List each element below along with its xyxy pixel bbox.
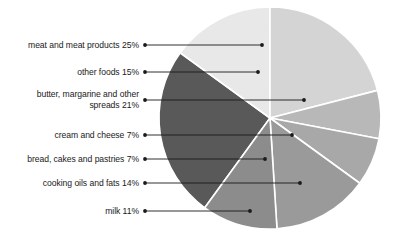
slice-label: milk 11% bbox=[0, 206, 139, 217]
pie-chart-canvas bbox=[0, 0, 393, 235]
leader-dot bbox=[143, 70, 147, 74]
leader-end-dot bbox=[302, 98, 306, 102]
leader-dot bbox=[143, 209, 147, 213]
leader-end-dot bbox=[290, 133, 294, 137]
leader-end-dot bbox=[248, 209, 252, 213]
pie-chart: meat and meat products 25%other foods 15… bbox=[0, 0, 393, 235]
leader-end-dot bbox=[260, 43, 264, 47]
slice-label: bread, cakes and pastries 7% bbox=[0, 154, 139, 165]
leader-dot bbox=[143, 43, 147, 47]
leader-dot bbox=[143, 133, 147, 137]
slice-label: other foods 15% bbox=[0, 67, 139, 78]
leader-end-dot bbox=[263, 157, 267, 161]
pie-slices-group bbox=[159, 7, 381, 229]
leader-end-dot bbox=[256, 70, 260, 74]
slice-label: cooking oils and fats 14% bbox=[0, 178, 139, 189]
slice-label: meat and meat products 25% bbox=[0, 40, 139, 51]
leader-dot bbox=[143, 181, 147, 185]
slice-label: butter, margarine and other spreads 21% bbox=[0, 89, 139, 110]
leader-dot bbox=[143, 98, 147, 102]
leader-end-dot bbox=[298, 181, 302, 185]
slice-label: cream and cheese 7% bbox=[0, 130, 139, 141]
leader-dot bbox=[143, 157, 147, 161]
